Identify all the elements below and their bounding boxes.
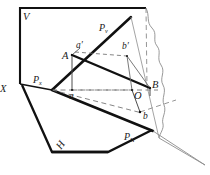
label-trace-ph-sub: H [130, 136, 134, 143]
label-point-b-prime: b′ [122, 42, 129, 52]
point-marker-B [149, 87, 151, 89]
label-trace-px: Px [33, 75, 42, 85]
label-axis-x: X [0, 84, 6, 95]
point-marker-b [139, 111, 141, 113]
label-v-plane: V [23, 12, 29, 23]
label-trace-pv: Pv [99, 23, 108, 33]
point-marker-A [71, 54, 73, 56]
point-marker-px [51, 89, 53, 91]
point-marker-b-prime [126, 55, 128, 57]
label-point-a: a [69, 92, 74, 102]
label-point-b: b [143, 112, 148, 122]
label-point-A: A [62, 51, 68, 62]
label-point-a-prime: a′ [76, 41, 83, 51]
plane-far-corner-edge [159, 138, 205, 165]
geometry-figure: V Pv A a′ b′ B X Px a O b PH H [0, 0, 210, 175]
line-b-prime-to-O [127, 56, 132, 90]
label-trace-pv-sub: v [105, 27, 108, 34]
torn-edge-path [146, 8, 165, 138]
label-origin-O: O [134, 91, 142, 102]
label-point-B: B [152, 80, 158, 91]
label-trace-px-sub: x [39, 79, 42, 86]
dashed-vertical-right [146, 8, 147, 86]
point-marker-O [131, 89, 133, 91]
label-trace-ph: PH [124, 132, 135, 142]
line-a-prime-to-b-prime [75, 52, 127, 56]
